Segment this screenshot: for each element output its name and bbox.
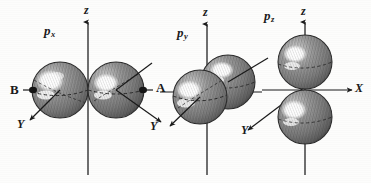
label-axis-z-px: z (84, 4, 89, 16)
label-axis-x-pz: X (355, 82, 363, 94)
label-axis-y-px: Y (17, 118, 24, 130)
pz-lobe-top-sphere (278, 35, 332, 89)
pz-lobe-bottom-sphere (278, 90, 332, 144)
panel-px (23, 22, 161, 175)
label-axis-y-py-right: Y (150, 120, 157, 132)
label-orbital-pz: pz (264, 9, 274, 22)
label-orbital-px: px (44, 24, 55, 37)
label-axis-z-py: z (203, 6, 208, 18)
label-orbital-py: py (177, 26, 188, 39)
label-axis-y-pz: Y (241, 124, 248, 136)
label-lobe-a: A (156, 81, 165, 94)
panel-pz (248, 22, 352, 175)
panel-py (160, 24, 268, 175)
p-orbital-figure: px py pz z z z Y Y Y X B A (0, 0, 371, 183)
label-lobe-b: B (10, 83, 19, 96)
label-axis-z-pz: z (301, 5, 306, 17)
